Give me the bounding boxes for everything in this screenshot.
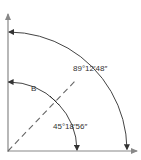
angle-diagram: 89°12′48″ B 45°18′56″ xyxy=(0,0,141,160)
angle-b-label: B xyxy=(31,84,36,93)
outer-arc-arrow-bottom xyxy=(111,92,127,150)
inner-angle-label: 45°18′56″ xyxy=(53,122,87,131)
cross-mark xyxy=(50,96,59,105)
outer-angle-arc xyxy=(9,32,111,92)
outer-angle-label: 89°12′48″ xyxy=(73,64,107,73)
